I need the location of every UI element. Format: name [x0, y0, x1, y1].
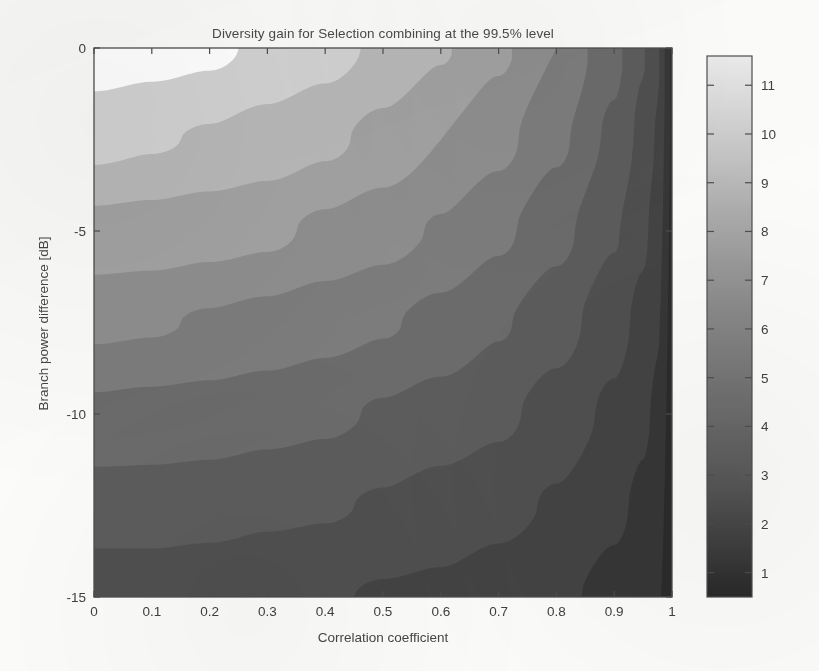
colorbar [0, 0, 819, 671]
figure-canvas: Diversity gain for Selection combining a… [0, 0, 819, 671]
colorbar-gradient [707, 56, 752, 597]
